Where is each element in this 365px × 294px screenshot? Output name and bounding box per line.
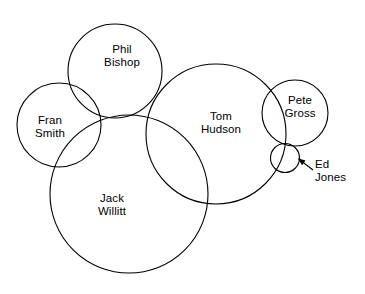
label-phil-bishop: Phil Bishop [92, 43, 152, 68]
circle-phil-bishop[interactable] [68, 24, 162, 118]
label-pete-gross: Pete Gross [276, 94, 324, 119]
venn-diagram: Fran Smith Phil Bishop Jack Willitt Tom … [0, 0, 365, 294]
venn-diagram-canvas [0, 0, 365, 294]
label-tom-hudson: Tom Hudson [190, 110, 252, 135]
label-fran-smith: Fran Smith [22, 114, 78, 139]
label-ed-jones: Ed Jones [315, 158, 361, 183]
label-jack-willitt: Jack Willitt [80, 192, 144, 217]
ed-jones-leader-arrow [298, 158, 314, 170]
